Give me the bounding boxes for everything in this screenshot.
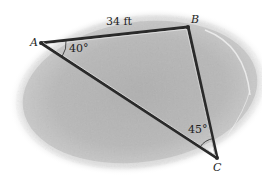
joint-B [186, 25, 190, 29]
joint-C [215, 156, 219, 160]
angle-label-A: 40° [69, 43, 89, 54]
angle-label-C: 45° [188, 124, 208, 135]
vertex-label-C: C [213, 162, 221, 173]
vertex-label-A: A [30, 37, 38, 48]
joint-A [39, 41, 43, 45]
vertex-label-B: B [191, 14, 199, 25]
dimension-label-AB: 34 ft [106, 16, 132, 27]
diagram-canvas: A B C 34 ft 40° 45° [0, 0, 262, 182]
